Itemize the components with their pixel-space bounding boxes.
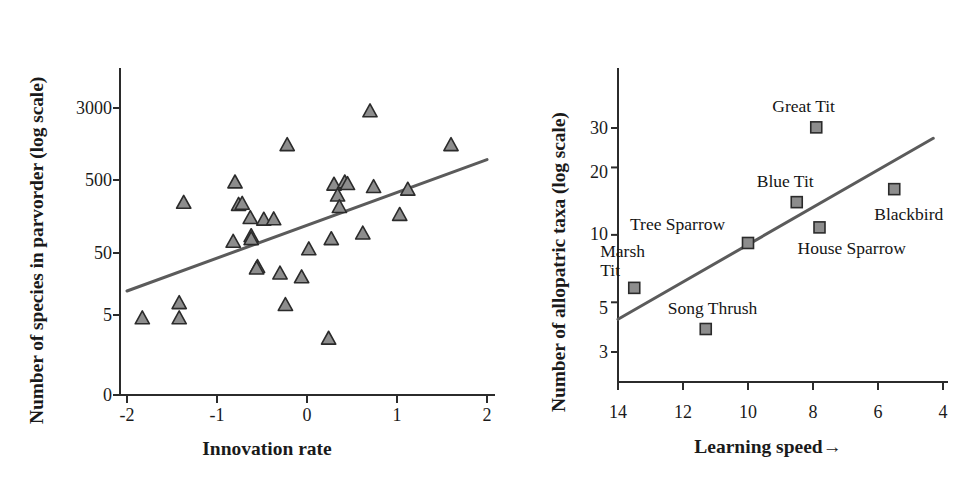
data-point-triangle	[324, 232, 338, 245]
data-point-triangle	[401, 182, 415, 195]
data-point-triangle	[273, 266, 287, 279]
scatter-plot-left	[0, 0, 500, 485]
data-point-triangle	[226, 234, 240, 247]
figure-root: Number of species in parvorder (log scal…	[0, 0, 970, 485]
data-point-triangle	[172, 311, 186, 324]
data-point-square	[889, 184, 900, 195]
data-point-triangle	[177, 195, 191, 208]
data-point-triangle	[366, 180, 380, 193]
point-label-song-thrush: Song Thrush	[668, 299, 758, 318]
data-point-triangle	[228, 175, 242, 188]
point-label-blue-tit: Blue Tit	[757, 172, 814, 191]
data-point-triangle	[363, 104, 377, 117]
data-point-triangle	[356, 226, 370, 239]
data-point-triangle	[267, 212, 281, 225]
data-point-triangle	[321, 331, 335, 344]
data-point-square	[700, 324, 711, 335]
point-label-tree-sparrow: Tree Sparrow	[630, 215, 725, 234]
data-point-triangle	[302, 242, 316, 255]
data-point-triangle	[393, 207, 407, 220]
data-point-square	[629, 282, 640, 293]
point-label-blackbird: Blackbird	[874, 205, 943, 224]
data-point-square	[814, 222, 825, 233]
point-label-marsh-tit: MarshTit	[600, 242, 645, 280]
data-point-triangle	[280, 138, 294, 151]
point-label-great-tit: Great Tit	[772, 97, 835, 116]
chart-panel-right: Number of allopatric taxa (log scale) 30…	[500, 0, 970, 485]
data-point-square	[791, 197, 802, 208]
data-point-triangle	[294, 270, 308, 283]
chart-panel-left: Number of species in parvorder (log scal…	[0, 0, 500, 485]
data-point-triangle	[444, 138, 458, 151]
data-point-triangle	[135, 311, 149, 324]
point-label-house-sparrow: House Sparrow	[798, 239, 906, 258]
data-point-square	[743, 237, 754, 248]
data-point-triangle	[278, 298, 292, 311]
data-point-square	[811, 122, 822, 133]
data-point-triangle	[243, 211, 257, 224]
data-point-triangle	[172, 296, 186, 309]
